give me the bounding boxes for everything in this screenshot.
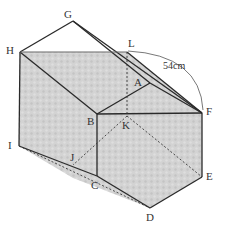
dimension-label: 54cm (163, 61, 185, 71)
label-vertex-e: E (206, 171, 213, 182)
label-vertex-c: C (91, 180, 98, 191)
label-vertex-b: B (87, 116, 94, 127)
label-vertex-h: H (6, 45, 14, 56)
label-vertex-j: J (70, 152, 74, 163)
label-vertex-a: A (134, 77, 142, 88)
solid-figure-diagram: G H L A B K F I J C E D 54cm (0, 0, 226, 228)
label-vertex-i: I (8, 140, 12, 151)
figure-svg (0, 0, 226, 228)
face-right (97, 113, 202, 208)
label-vertex-l: L (128, 38, 135, 49)
label-vertex-f: F (206, 106, 212, 117)
label-vertex-d: D (146, 212, 154, 223)
label-vertex-k: K (122, 120, 130, 131)
label-vertex-g: G (64, 9, 72, 20)
